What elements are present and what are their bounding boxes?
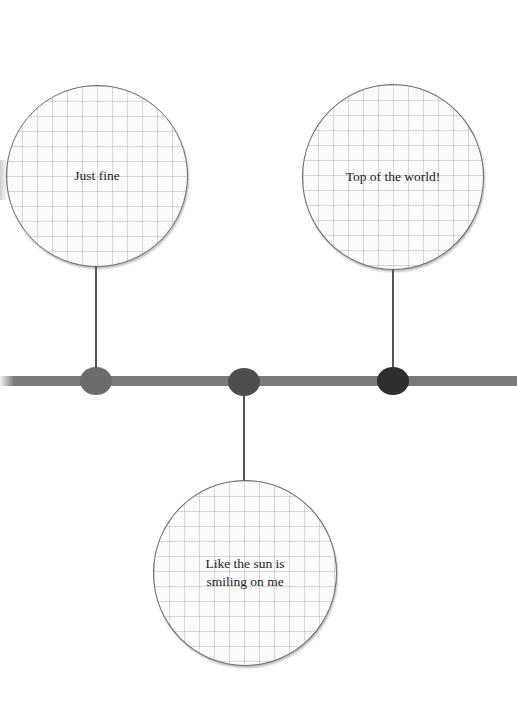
timeline-dot-2 [228,368,260,396]
connector-1 [95,266,97,376]
event-label-2: Like the sun is smiling on me [185,555,305,591]
timeline-dot-1 [80,367,112,395]
event-bubble-3: Top of the world! [302,84,484,270]
event-bubble-1: Just fine [6,85,188,267]
timeline-axis-fade [0,372,14,390]
connector-3 [392,269,394,377]
event-label-1: Just fine [74,167,119,185]
connector-2 [243,386,245,482]
event-label-3: Top of the world! [346,168,441,186]
timeline-dot-3 [377,367,409,395]
event-bubble-2: Like the sun is smiling on me [153,480,337,666]
